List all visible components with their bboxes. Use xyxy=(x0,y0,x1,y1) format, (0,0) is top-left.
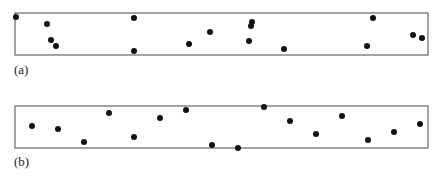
panel-a xyxy=(13,13,428,55)
panel-b-label: (b) xyxy=(14,154,29,170)
data-point xyxy=(48,37,54,43)
data-point xyxy=(13,14,19,20)
data-point xyxy=(81,139,87,145)
data-point xyxy=(29,123,35,129)
data-point xyxy=(391,129,397,135)
data-point xyxy=(53,43,59,49)
data-point xyxy=(44,21,50,27)
panel-b xyxy=(15,104,428,151)
data-point xyxy=(419,35,425,41)
data-point xyxy=(281,46,287,52)
data-point xyxy=(261,104,267,110)
data-point xyxy=(131,134,137,140)
point-distribution-diagram xyxy=(0,0,437,178)
data-point xyxy=(410,32,416,38)
data-point xyxy=(157,115,163,121)
data-point xyxy=(339,113,345,119)
data-point xyxy=(186,41,192,47)
data-point xyxy=(246,38,252,44)
data-point xyxy=(248,23,254,29)
data-point xyxy=(55,126,61,132)
data-point xyxy=(313,131,319,137)
data-point xyxy=(364,43,370,49)
data-point xyxy=(106,110,112,116)
panel-a-label: (a) xyxy=(14,62,28,78)
data-point xyxy=(131,15,137,21)
data-point xyxy=(365,137,371,143)
data-point xyxy=(235,145,241,151)
data-point xyxy=(207,29,213,35)
data-point xyxy=(370,15,376,21)
data-point xyxy=(209,142,215,148)
data-point xyxy=(131,48,137,54)
data-point xyxy=(417,121,423,127)
data-point xyxy=(183,107,189,113)
data-point xyxy=(287,118,293,124)
